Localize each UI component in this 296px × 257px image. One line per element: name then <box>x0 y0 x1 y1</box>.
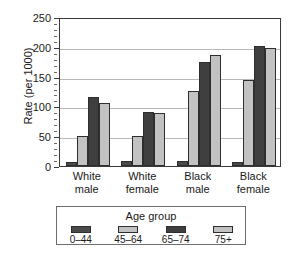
bar <box>243 80 254 166</box>
y-axis-tick-minor <box>54 113 57 114</box>
bar <box>77 136 88 166</box>
legend: Age group 0–4445–6465–7475+ <box>56 206 246 245</box>
bar <box>132 136 143 166</box>
y-axis-tick-labels: 050100150200250 <box>20 18 51 167</box>
legend-item[interactable]: 75+ <box>200 226 246 245</box>
legend-item[interactable]: 65–74 <box>153 226 199 245</box>
legend-swatch <box>166 226 186 233</box>
y-axis-tick-label: 100 <box>23 102 51 112</box>
bar <box>232 162 243 166</box>
y-axis-tick-minor <box>54 84 57 85</box>
bar <box>154 113 165 166</box>
y-axis-tick-minor <box>54 30 57 31</box>
y-axis-tick-minor <box>54 54 57 55</box>
y-axis-tick-minor <box>54 101 57 102</box>
y-axis-tick-minor <box>54 155 57 156</box>
bar <box>199 62 210 166</box>
bar <box>88 97 99 166</box>
y-axis-tick-minor <box>54 95 57 96</box>
y-axis-tick-minor <box>54 125 57 126</box>
y-axis-tick-minor <box>54 72 57 73</box>
x-axis-category-label: Blackfemale <box>218 170 288 196</box>
y-axis-tick-label: 150 <box>23 73 51 83</box>
bar-chart: Rate (per 1000) 050100150200250 Whitemal… <box>0 0 296 257</box>
bar <box>265 48 276 166</box>
legend-label: 45–64 <box>105 234 151 245</box>
legend-label: 75+ <box>200 234 246 245</box>
y-axis-tick-minor <box>54 119 57 120</box>
bar <box>66 162 77 166</box>
bar <box>188 91 199 166</box>
y-axis-tick-minor <box>54 24 57 25</box>
legend-swatch <box>213 226 233 233</box>
bars-layer <box>60 19 280 166</box>
legend-swatch <box>118 226 138 233</box>
legend-label: 0–44 <box>58 234 104 245</box>
bar <box>210 55 221 166</box>
x-axis-category-labels: WhitemaleWhitefemaleBlackmaleBlackfemale <box>59 170 281 200</box>
legend-items: 0–4445–6465–7475+ <box>57 226 245 246</box>
plot-area <box>59 18 281 167</box>
y-axis-tick-minor <box>54 90 57 91</box>
y-axis-tick-minor <box>54 36 57 37</box>
bar <box>177 161 188 166</box>
y-axis-tick-minor <box>54 143 57 144</box>
y-axis-tick-minor <box>54 131 57 132</box>
y-axis-tick-label: 250 <box>23 13 51 23</box>
legend-label: 65–74 <box>153 234 199 245</box>
y-axis-tick-minor <box>54 161 57 162</box>
bar <box>143 112 154 166</box>
bar <box>254 46 265 166</box>
bar <box>121 161 132 166</box>
y-axis-tick-major <box>54 167 59 168</box>
legend-swatch <box>71 226 91 233</box>
legend-item[interactable]: 0–44 <box>58 226 104 245</box>
legend-item[interactable]: 45–64 <box>105 226 151 245</box>
x-axis-label-line: Black <box>218 170 288 183</box>
y-axis-tick-minor <box>54 149 57 150</box>
y-axis-tick-label: 0 <box>23 162 51 172</box>
y-axis-tick-minor <box>54 60 57 61</box>
y-axis-tick-label: 200 <box>23 43 51 53</box>
y-axis-tick-minor <box>54 66 57 67</box>
y-axis-tick-minor <box>54 42 57 43</box>
bar <box>99 103 110 166</box>
legend-title: Age group <box>57 210 245 222</box>
y-axis-tick-label: 50 <box>23 132 51 142</box>
x-axis-label-line: female <box>218 183 288 196</box>
